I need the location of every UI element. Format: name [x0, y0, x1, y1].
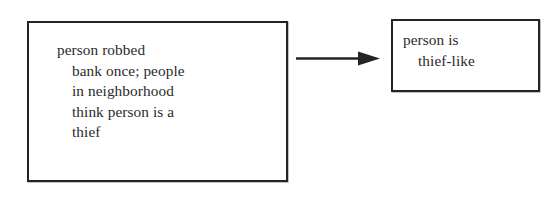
antecedent-line-3: in neighborhood [57, 81, 185, 102]
arrow-right-icon [296, 50, 380, 67]
diagram-canvas: person robbed bank once; people in neigh… [0, 0, 556, 197]
consequent-node-box: person is thief-like [391, 19, 540, 92]
antecedent-node-text: person robbed bank once; people in neigh… [57, 40, 185, 143]
consequent-node-text: person is thief-like [403, 30, 475, 71]
consequent-line-2: thief-like [403, 51, 475, 72]
arrow-head [358, 52, 380, 66]
antecedent-line-4: think person is a [57, 102, 185, 123]
antecedent-line-2: bank once; people [57, 61, 185, 82]
antecedent-line-1: person robbed [57, 40, 185, 61]
consequent-line-1: person is [403, 30, 475, 51]
antecedent-line-5: thief [57, 122, 185, 143]
